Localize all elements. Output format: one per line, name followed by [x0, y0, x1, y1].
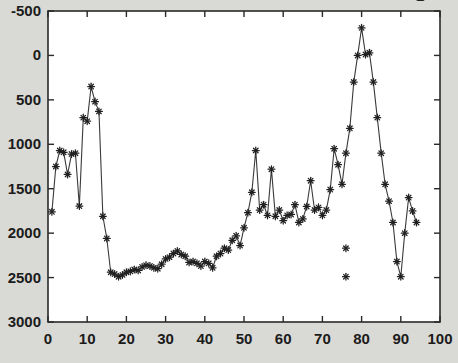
data-point-marker	[268, 166, 275, 173]
data-point-marker	[378, 150, 385, 157]
data-point-marker	[96, 108, 103, 115]
data-point-marker	[99, 213, 106, 220]
data-point-marker	[245, 209, 252, 216]
data-point-marker	[343, 245, 350, 252]
data-point-marker	[225, 247, 232, 254]
x-tick-label: 0	[44, 330, 52, 347]
data-point-marker	[397, 273, 404, 280]
data-point-marker	[386, 198, 393, 205]
data-point-marker	[158, 261, 165, 268]
data-point-marker	[233, 232, 240, 239]
data-point-marker	[303, 203, 310, 210]
x-tick-label: 100	[427, 330, 452, 347]
data-point-marker	[182, 253, 189, 260]
data-point-marker	[346, 125, 353, 132]
x-tick-label: 70	[314, 330, 331, 347]
y-tick-label: 2000	[8, 224, 41, 241]
data-point-marker	[393, 258, 400, 265]
data-point-marker	[272, 213, 279, 220]
y-tick-label: 500	[16, 91, 41, 108]
data-point-marker	[72, 150, 79, 157]
data-point-marker	[382, 181, 389, 188]
y-tick-label: 1000	[8, 135, 41, 152]
x-tick-label: 80	[353, 330, 370, 347]
data-point-marker	[209, 264, 216, 271]
y-tick-label: 1500	[8, 180, 41, 197]
x-tick-label: 90	[392, 330, 409, 347]
data-point-marker	[405, 194, 412, 201]
data-point-marker	[103, 235, 110, 242]
data-point-marker	[52, 163, 59, 170]
data-point-marker	[339, 181, 346, 188]
data-point-marker	[299, 216, 306, 223]
data-point-marker	[64, 171, 71, 178]
data-point-marker	[217, 250, 224, 257]
data-point-marker	[370, 79, 377, 86]
data-point-marker	[256, 207, 263, 214]
data-point-marker	[331, 145, 338, 152]
x-tick-label: 40	[196, 330, 213, 347]
x-tick-label: 30	[157, 330, 174, 347]
data-point-marker	[88, 83, 95, 90]
data-point-marker	[264, 212, 271, 219]
data-point-marker	[374, 114, 381, 121]
data-point-marker	[401, 230, 408, 237]
y-tick-label: 0	[33, 46, 41, 63]
data-point-marker	[260, 201, 267, 208]
data-point-marker	[292, 201, 299, 208]
data-point-marker	[252, 147, 259, 154]
data-point-marker	[335, 161, 342, 168]
data-point-marker	[409, 208, 416, 215]
data-point-marker	[390, 219, 397, 226]
y-tick-label: 3000	[8, 313, 41, 330]
data-point-marker	[358, 24, 365, 31]
y-tick-label: -500	[11, 2, 41, 19]
data-point-marker	[237, 242, 244, 249]
data-point-marker	[241, 224, 248, 231]
x-tick-label: 10	[79, 330, 96, 347]
data-point-marker	[288, 211, 295, 218]
chart-figure: 0102030405060708090100300025002000150010…	[0, 0, 458, 363]
x-tick-label: 60	[275, 330, 292, 347]
data-point-marker	[248, 189, 255, 196]
data-point-marker	[276, 207, 283, 214]
x-tick-label: 50	[236, 330, 253, 347]
data-point-marker	[327, 186, 334, 193]
data-point-marker	[350, 79, 357, 86]
data-point-marker	[354, 52, 361, 59]
data-point-marker	[60, 149, 67, 156]
data-point-marker	[315, 204, 322, 211]
data-point-marker	[366, 49, 373, 56]
data-point-marker	[76, 203, 83, 210]
y-tick-label: 2500	[8, 269, 41, 286]
data-point-marker	[413, 219, 420, 226]
x-tick-label: 20	[118, 330, 135, 347]
line-chart-svg: 0102030405060708090100300025002000150010…	[0, 0, 458, 363]
data-point-marker	[323, 207, 330, 214]
data-point-marker	[319, 212, 326, 219]
plot-area-background	[48, 11, 440, 322]
data-point-marker	[343, 273, 350, 280]
data-point-marker	[307, 177, 314, 184]
data-point-marker	[343, 150, 350, 157]
data-point-marker	[92, 98, 99, 105]
data-point-marker	[280, 217, 287, 224]
data-point-marker	[84, 118, 91, 125]
data-point-marker	[49, 208, 56, 215]
